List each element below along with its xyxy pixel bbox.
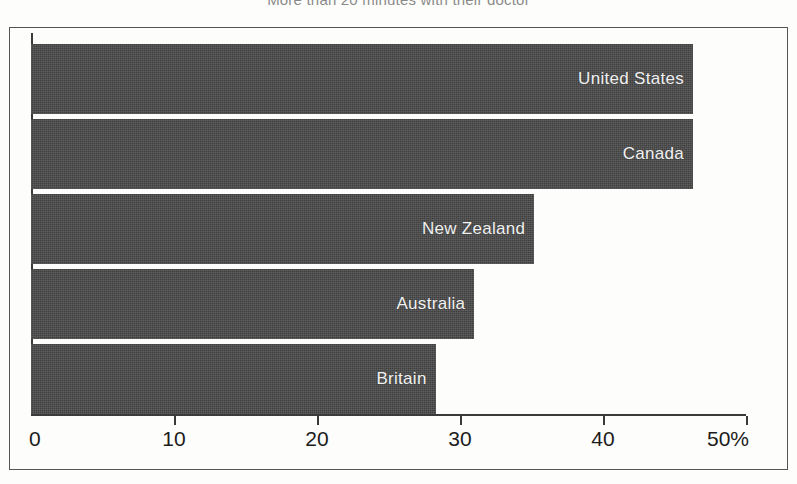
tick-mark [174, 416, 176, 425]
tick-label: 0 [29, 427, 41, 451]
bar-series: United States Canada New Zealand Austral… [31, 44, 746, 414]
bar-new-zealand[interactable]: New Zealand [31, 194, 534, 264]
bar-label: United States [578, 69, 684, 89]
bar-canada[interactable]: Canada [31, 119, 693, 189]
bar-row: Canada [31, 119, 746, 189]
bar-britain[interactable]: Britain [31, 344, 436, 414]
tick-mark [460, 416, 462, 425]
bar-label: Australia [396, 294, 465, 314]
tick-mark [603, 416, 605, 425]
bar-label: Britain [376, 369, 426, 389]
tick-label: 50% [707, 427, 749, 451]
tick-label: 30 [448, 427, 471, 451]
x-axis-ticks: 0 10 20 30 40 50% [31, 416, 746, 466]
tick-mark [317, 416, 319, 425]
tick-label: 40 [591, 427, 614, 451]
bar-row: Australia [31, 269, 746, 339]
bar-row: United States [31, 44, 746, 114]
plot-area: United States Canada New Zealand Austral… [31, 33, 788, 470]
tick-label: 20 [305, 427, 328, 451]
bar-united-states[interactable]: United States [31, 44, 693, 114]
tick-label: 10 [162, 427, 185, 451]
tick-mark [746, 416, 748, 425]
bar-row: Britain [31, 344, 746, 414]
bar-label: New Zealand [422, 219, 525, 239]
bar-australia[interactable]: Australia [31, 269, 474, 339]
bar-label: Canada [623, 144, 684, 164]
chart-title: More than 20 minutes with their doctor [0, 0, 797, 8]
bar-row: New Zealand [31, 194, 746, 264]
